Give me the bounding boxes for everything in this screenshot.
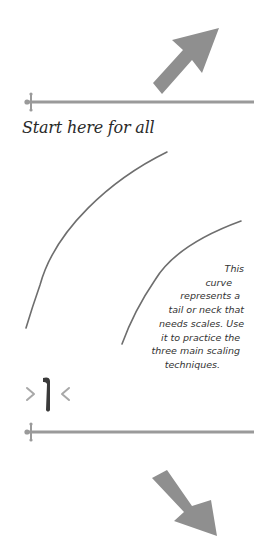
curve-instruction-note: This curve represents a tail or neck tha… — [104, 262, 244, 372]
note-line: curve — [104, 276, 244, 290]
note-line: represents a — [104, 289, 244, 303]
bottom-guide-rule — [24, 422, 254, 441]
note-line: needs scales. Use — [104, 317, 244, 331]
note-line: tail or neck that — [104, 303, 244, 317]
arrow-up-right-icon — [153, 28, 219, 94]
note-line: three main scaling — [104, 344, 244, 358]
start-here-label: Start here for all — [22, 118, 155, 137]
note-line: it to practice the — [104, 331, 244, 345]
pen-nib-width-icon — [27, 377, 69, 411]
note-line: techniques. — [104, 358, 244, 372]
arrow-down-right-icon — [152, 470, 217, 536]
note-line: This — [104, 262, 244, 276]
top-guide-rule — [24, 92, 254, 111]
